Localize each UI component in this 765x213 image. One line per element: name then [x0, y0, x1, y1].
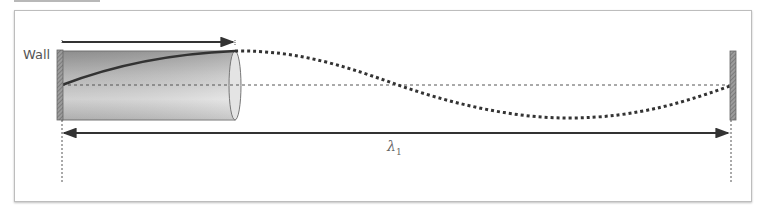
wall-label: Wall: [23, 47, 50, 62]
right-wall: [730, 51, 736, 120]
wave-dotted: [235, 51, 733, 118]
standing-wave-diagram: [0, 0, 765, 213]
lambda-symbol: λ: [387, 138, 396, 154]
wavelength-label: λ1: [387, 138, 402, 157]
lambda-subscript: 1: [396, 147, 402, 157]
left-wall: [57, 50, 63, 120]
